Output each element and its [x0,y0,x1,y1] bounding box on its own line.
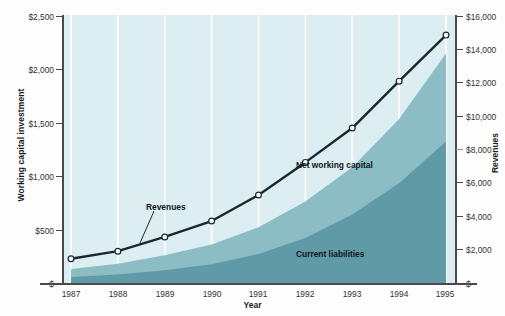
right-tick-label: $2,000 [466,245,505,255]
x-tick-label: 1992 [282,289,328,299]
left-tick-label: $500 [2,226,54,236]
x-axis-title: Year [0,300,505,310]
right-tick-label: $8,000 [466,145,505,155]
x-tick-label: 1989 [142,289,188,299]
annotation-revenues: Revenues [146,202,186,212]
left-axis-title: Working capital investment [16,70,26,220]
chart-canvas [62,15,455,283]
revenue-data-point [256,192,262,198]
left-tick-label: $2,000 [2,65,54,75]
right-tick [456,216,463,217]
annotation-current-liabilities: Current liabilities [296,249,364,259]
revenue-data-point [68,256,74,262]
revenue-data-point [162,234,168,240]
right-tick [456,149,463,150]
left-tick-label: $2,500 [2,12,54,22]
right-tick-label: $4,000 [466,212,505,222]
revenue-data-point [443,32,449,38]
chart-figure: Working capital investment Revenues Year… [0,0,505,316]
x-tick-label: 1991 [235,289,281,299]
left-axis-line [62,15,64,284]
right-tick-label: $6,000 [466,178,505,188]
x-axis-line [40,283,477,285]
x-tick-label: 1993 [329,289,375,299]
right-tick-label: $10,000 [466,112,505,122]
left-tick [56,16,63,17]
revenue-data-point [209,218,215,224]
right-tick-label: $14,000 [466,45,505,55]
left-tick-label: $1,500 [2,119,54,129]
right-tick [456,16,463,17]
revenue-data-point [396,78,402,84]
right-tick [456,82,463,83]
revenue-data-point [115,248,121,254]
right-tick [456,49,463,50]
left-tick-label: $1,000 [2,172,54,182]
right-tick [456,249,463,250]
right-tick [456,182,463,183]
x-tick-label: 1995 [422,289,468,299]
x-tick-label: 1988 [95,289,141,299]
left-tick [56,69,63,70]
x-tick-label: 1987 [48,289,94,299]
left-tick [56,123,63,124]
left-tick [56,176,63,177]
x-tick-label: 1994 [376,289,422,299]
right-tick [456,116,463,117]
plot-area [62,15,455,283]
revenue-data-point [349,125,355,131]
right-tick-label: $12,000 [466,78,505,88]
left-tick [56,230,63,231]
right-tick-label: $16,000 [466,12,505,22]
x-tick-label: 1990 [189,289,235,299]
annotation-net-working-capital: Net working capital [296,160,373,170]
